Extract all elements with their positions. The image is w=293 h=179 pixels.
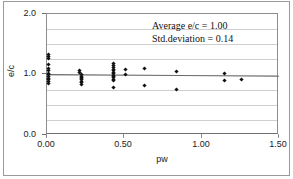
data-point [124,72,128,76]
data-point [79,83,83,87]
data-point [124,67,128,71]
x-tickmark-2 [201,134,202,138]
data-point [142,83,146,87]
statistics-annotation: Average e/c = 1.00 Std.deviation = 0.14 [152,19,233,45]
y-axis-title: e/c [6,56,16,86]
gridline-1 [47,105,277,106]
x-axis-title: pw [46,154,278,164]
data-point [142,66,146,70]
data-point [46,81,50,85]
x-tickmark-3 [278,134,279,138]
data-point [111,78,115,82]
chart-figure: 2.0 1.0 0.0 e/c 0.00 0.50 1.00 1.50 pw A… [0,0,293,179]
gridline-0 [47,120,277,121]
data-point [240,77,244,81]
gridline-4 [47,59,277,60]
y-tick-label-2: 2.0 [10,9,36,18]
average-annotation-text: Average e/c = 1.00 [152,19,233,32]
y-tick-label-0: 0.0 [10,130,36,139]
x-tick-label-0: 0.00 [26,140,66,149]
stddev-annotation-text: Std.deviation = 0.14 [152,32,233,45]
data-point [175,88,179,92]
x-tick-label-2: 1.00 [181,140,221,149]
gridline-2 [47,90,277,91]
x-tickmark-0 [46,134,47,138]
x-tick-label-1: 0.50 [103,140,143,149]
data-point [223,78,227,82]
x-tickmark-1 [123,134,124,138]
data-point [175,69,179,73]
x-tick-label-3: 1.50 [258,140,293,149]
